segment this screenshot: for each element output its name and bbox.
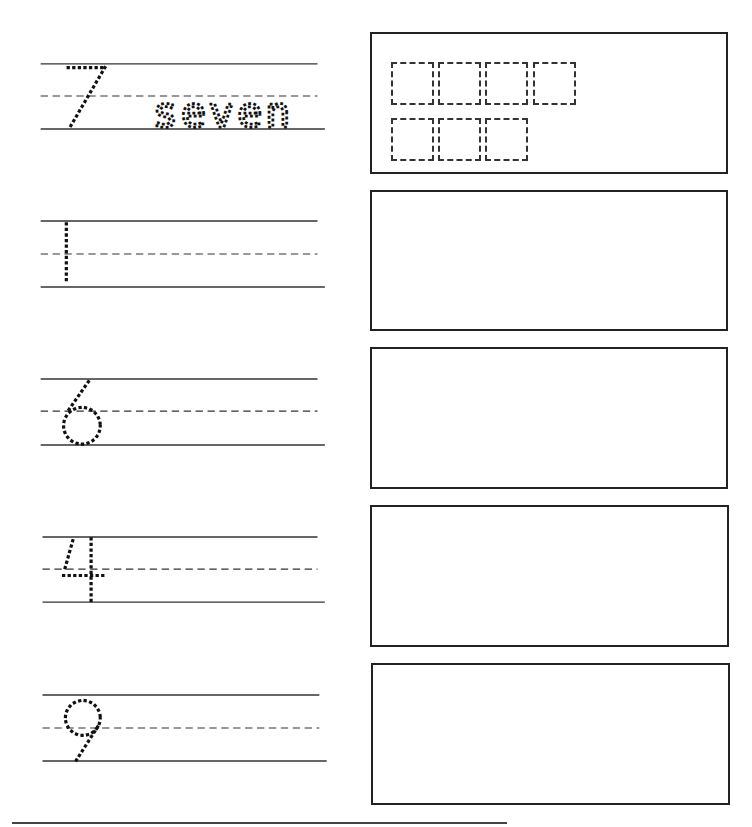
counter-square <box>485 118 528 161</box>
handwriting-guide-lines <box>0 346 360 456</box>
handwriting-guide-lines: seven <box>0 30 360 140</box>
counter-square <box>438 62 481 105</box>
handwriting-guide-lines <box>0 504 360 614</box>
answer-box-6[interactable] <box>370 347 728 489</box>
handwriting-guide-lines <box>0 188 360 298</box>
handwriting-guide-lines <box>0 662 360 772</box>
page-bottom-rule <box>12 822 507 824</box>
counter-square <box>533 62 576 105</box>
answer-box-9[interactable] <box>371 663 730 805</box>
traceable-numeral-7[interactable] <box>68 68 105 128</box>
answer-box-7[interactable] <box>370 32 728 174</box>
answer-box-1[interactable] <box>370 190 728 331</box>
answer-box-4[interactable] <box>370 505 729 647</box>
traceable-numeral-6[interactable] <box>64 382 101 444</box>
counter-square <box>485 62 528 105</box>
counter-square <box>438 118 481 161</box>
counter-square <box>391 118 434 161</box>
traceable-numeral-9[interactable] <box>65 701 100 761</box>
traceable-numeral-4[interactable] <box>64 539 105 601</box>
traceable-word[interactable]: seven <box>153 88 294 137</box>
counter-square <box>391 62 434 105</box>
